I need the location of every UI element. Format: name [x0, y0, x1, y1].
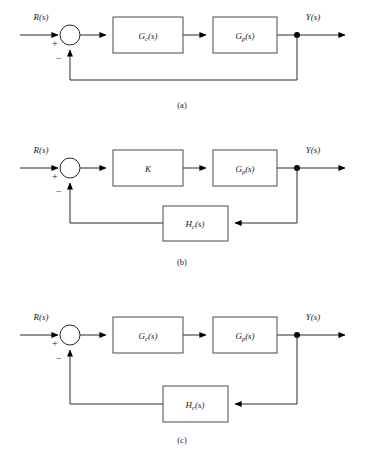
minus-sign-c: − — [56, 353, 62, 364]
block-diagram-c: Gc(s) Gp(s) Hc(s) R(s) Y(s) + − (c) — [0, 0, 365, 450]
plus-sign-c: + — [52, 338, 58, 349]
summing-junction-c — [60, 325, 80, 345]
figure-sheet: Gc(s) Gp(s) R(s) Y(s) + − (a) K Gp(s) Hc… — [0, 0, 365, 450]
output-label-c: Y(s) — [306, 312, 321, 322]
caption-c: (c) — [177, 435, 187, 445]
block-c-forward-2-label: Gp(s) — [235, 331, 254, 342]
input-label-c: R(s) — [33, 312, 49, 322]
block-c-forward-1-label: Gc(s) — [139, 331, 158, 342]
block-c-feedback-label: Hc(s) — [185, 400, 205, 411]
